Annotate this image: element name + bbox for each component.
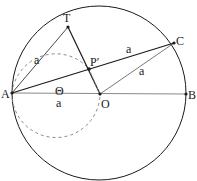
label-O: O — [101, 97, 110, 111]
label-C: C — [176, 34, 184, 48]
label-B: B — [188, 88, 196, 102]
label-OC-a: a — [139, 64, 145, 78]
label-P: P′ — [90, 55, 100, 69]
segment-OC — [100, 43, 174, 94]
label-PC-a: a — [126, 42, 132, 56]
label-theta: Θ — [55, 84, 64, 98]
label-AT-a: a — [34, 53, 40, 67]
label-A: A — [1, 87, 10, 101]
point-A — [10, 91, 13, 94]
label-T: T — [63, 11, 71, 25]
point-T — [66, 25, 69, 28]
label-AO-a: a — [56, 96, 62, 110]
geometry-diagram: A O B T P′ C a a a a Θ — [0, 0, 197, 181]
point-O — [98, 92, 101, 95]
